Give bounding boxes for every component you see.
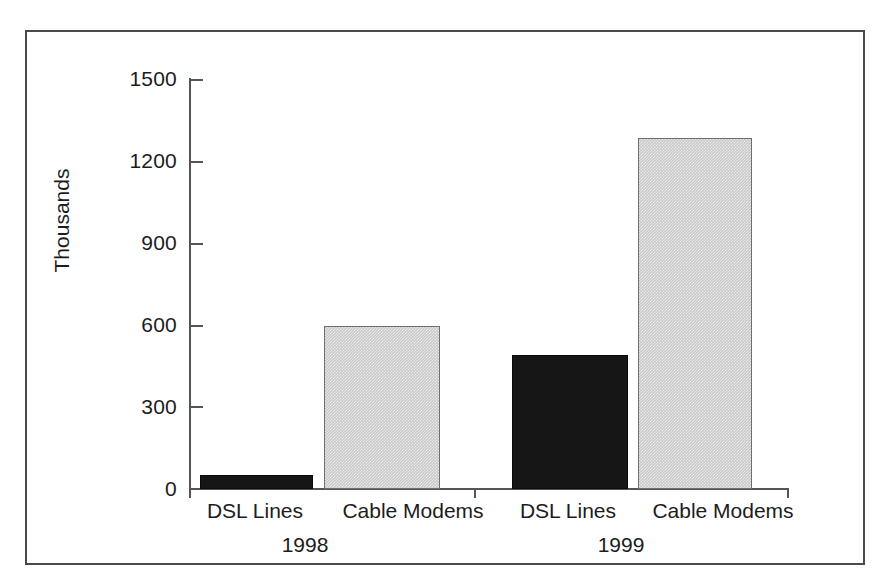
bar-1999-cable-modems	[638, 138, 752, 489]
x-label-1998-dsl-lines: DSL Lines	[180, 500, 330, 521]
plot-area: 0 300 600 900 1200 1500 Thousands DSL Li…	[0, 0, 890, 581]
x-label-1999-cable-modems: Cable Modems	[628, 500, 818, 521]
x-axis-group-divider-tick	[474, 489, 476, 498]
figure-root: 0 300 600 900 1200 1500 Thousands DSL Li…	[0, 0, 890, 581]
x-axis-right-cap	[787, 489, 789, 498]
bar-1999-dsl-lines	[512, 355, 628, 489]
bar-1998-cable-modems	[324, 326, 440, 489]
x-group-label-1999: 1999	[561, 534, 681, 555]
x-label-1998-cable-modems: Cable Modems	[318, 500, 508, 521]
x-axis-left-cap	[189, 489, 191, 498]
bars-layer	[0, 0, 890, 489]
bar-1998-dsl-lines	[200, 475, 313, 489]
x-group-label-1998: 1998	[245, 534, 365, 555]
x-label-1999-dsl-lines: DSL Lines	[493, 500, 643, 521]
